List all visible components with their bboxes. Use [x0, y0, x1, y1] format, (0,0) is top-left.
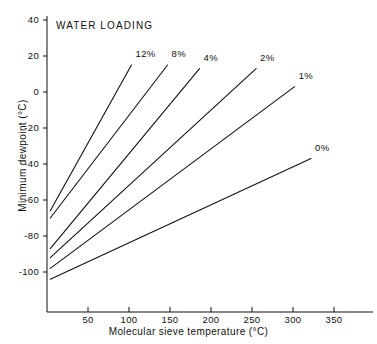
series-line-1pct	[50, 87, 294, 269]
x-axis-ticks	[88, 307, 334, 312]
x-tick-label: 150	[150, 314, 190, 325]
y-tick-label: 0	[0, 86, 39, 97]
data-series-lines	[50, 65, 311, 279]
y-tick-label: -100	[0, 266, 39, 277]
y-axis-ticks	[43, 20, 47, 272]
y-tick-label: -80	[0, 230, 39, 241]
series-line-0pct	[50, 159, 311, 280]
chart-figure: WATER LOADING Molecular sieve temperatur…	[0, 0, 377, 344]
x-tick-label: 50	[68, 314, 108, 325]
x-tick-label: 350	[314, 314, 354, 325]
y-tick-label: -40	[0, 158, 39, 169]
series-label-4pct: 4%	[204, 52, 219, 63]
x-tick-label: 200	[191, 314, 231, 325]
y-tick-label: 20	[0, 50, 39, 61]
series-label-1pct: 1%	[299, 70, 314, 81]
chart-title: WATER LOADING	[56, 20, 153, 31]
plot-canvas	[0, 0, 377, 344]
series-line-12pct	[50, 65, 131, 211]
series-label-2pct: 2%	[260, 52, 275, 63]
x-tick-label: 300	[273, 314, 313, 325]
y-axis-label: Minimum dewpoint (°C)	[17, 76, 28, 236]
series-line-2pct	[50, 69, 256, 258]
series-line-8pct	[50, 65, 167, 218]
x-tick-label: 100	[109, 314, 149, 325]
series-label-0pct: 0%	[315, 142, 330, 153]
y-tick-label: -60	[0, 194, 39, 205]
y-tick-label: -20	[0, 122, 39, 133]
x-axis-label: Molecular sieve temperature (°C)	[0, 326, 377, 337]
series-line-4pct	[50, 69, 199, 249]
y-tick-label: 40	[0, 14, 39, 25]
series-label-8pct: 8%	[172, 48, 187, 59]
x-tick-label: 250	[232, 314, 272, 325]
series-label-12pct: 12%	[135, 48, 155, 59]
